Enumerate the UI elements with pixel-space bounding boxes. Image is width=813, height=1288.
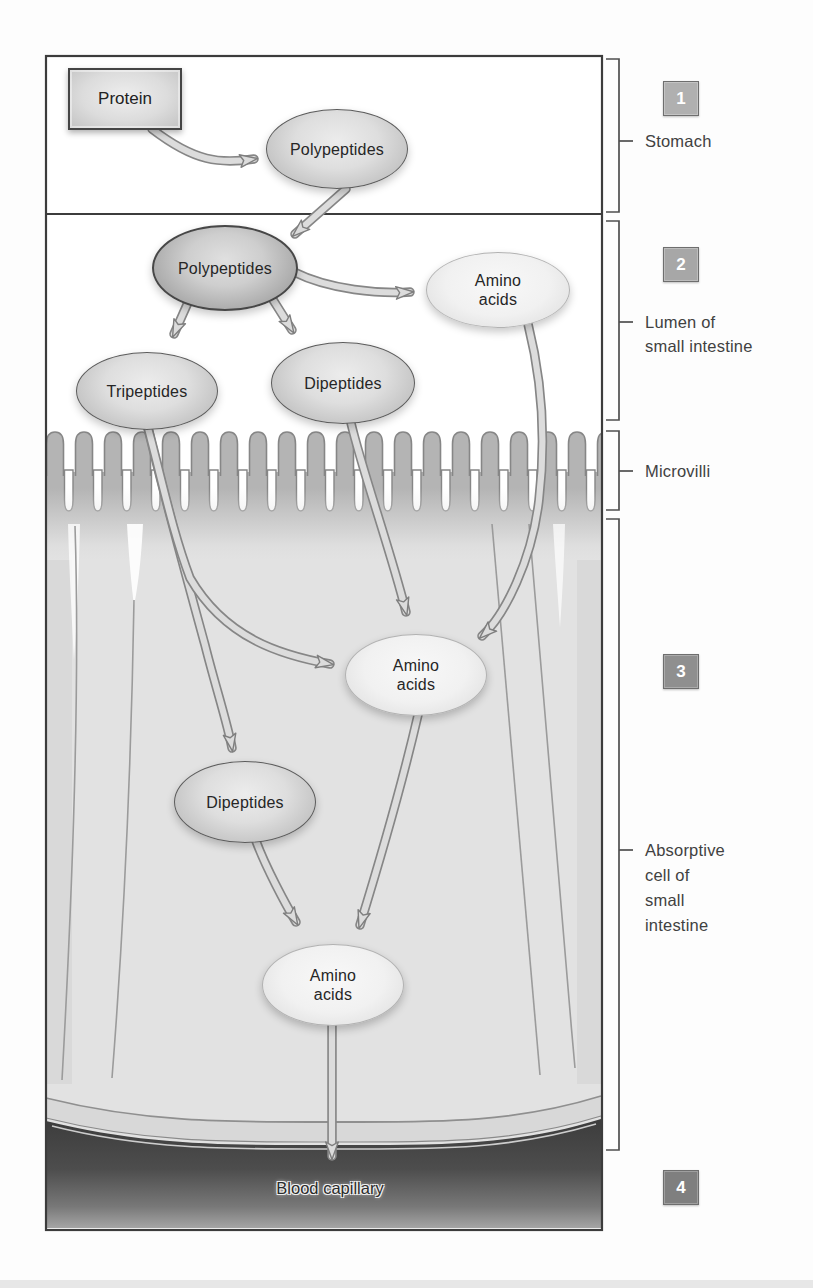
node-label: Amino acids <box>393 656 439 694</box>
legend-brackets <box>606 59 633 1150</box>
node-amino-acids-basal: Amino acids <box>262 944 404 1026</box>
bracket-microvilli <box>606 431 619 510</box>
label-lumen: Lumen of small intestine <box>645 310 753 358</box>
bracket-lumen <box>606 221 619 420</box>
node-dipeptides-cell: Dipeptides <box>174 761 316 843</box>
node-dipeptides-lumen: Dipeptides <box>271 342 415 424</box>
bracket-absorptive-cell <box>606 519 619 1150</box>
step-badge-3: 3 <box>663 654 699 689</box>
label-microvilli: Microvilli <box>645 459 710 483</box>
node-amino-acids-lumen: Amino acids <box>426 252 570 328</box>
label-absorptive-cell: Absorptive cell of small intestine <box>645 838 725 938</box>
node-label: Amino acids <box>475 271 521 309</box>
step-badge-4: 4 <box>663 1170 699 1205</box>
node-label: Polypeptides <box>178 259 272 278</box>
node-label: Dipeptides <box>206 793 284 812</box>
bracket-stomach <box>606 59 619 212</box>
blood-capillary-label: Blood capillary <box>276 1179 383 1198</box>
node-protein-label: Protein <box>98 89 152 109</box>
cell-left-shading <box>47 524 72 1084</box>
node-polypeptides-stomach: Polypeptides <box>266 109 408 189</box>
node-tripeptides: Tripeptides <box>76 352 218 430</box>
step-badge-1: 1 <box>663 81 699 116</box>
node-protein: Protein <box>68 68 182 130</box>
step-badge-2: 2 <box>663 247 699 282</box>
node-label: Dipeptides <box>304 374 382 393</box>
node-label: Tripeptides <box>107 382 188 401</box>
node-polypeptides-lumen: Polypeptides <box>152 225 298 311</box>
label-stomach: Stomach <box>645 129 712 153</box>
figure-protein-digestion: Protein Polypeptides Polypeptides Amino … <box>0 0 813 1288</box>
cell-right-shading <box>577 524 601 1084</box>
page-edge-artifact <box>0 1280 813 1288</box>
node-label: Polypeptides <box>290 140 384 159</box>
node-label: Amino acids <box>310 966 356 1004</box>
node-amino-acids-cell: Amino acids <box>345 634 487 716</box>
